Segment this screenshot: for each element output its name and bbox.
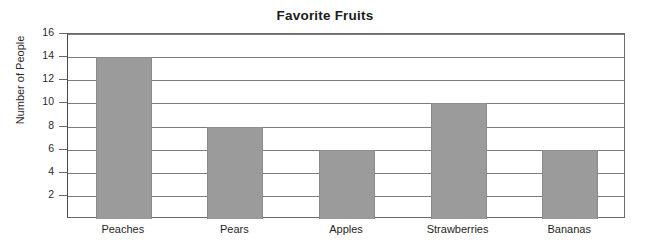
bar-chart: Favorite Fruits Number of People 2468101…: [0, 0, 650, 250]
y-tick-label: 8: [20, 119, 54, 131]
y-tick-label: 16: [20, 26, 54, 38]
y-tick-label: 2: [20, 188, 54, 200]
x-axis-label: Bananas: [509, 223, 629, 235]
y-tick-mark: [59, 172, 67, 173]
bar: [319, 150, 375, 219]
chart-title: Favorite Fruits: [0, 8, 650, 23]
bar: [96, 57, 152, 219]
y-tick-mark: [59, 33, 67, 34]
y-tick-mark: [59, 102, 67, 103]
y-tick-mark: [59, 126, 67, 127]
bar: [431, 103, 487, 219]
y-tick-label: 10: [20, 95, 54, 107]
x-axis-label: Peaches: [63, 223, 183, 235]
bar: [542, 150, 598, 219]
y-tick-label: 14: [20, 49, 54, 61]
y-tick-mark: [59, 79, 67, 80]
gridline: [68, 34, 624, 35]
y-tick-mark: [59, 149, 67, 150]
y-tick-label: 6: [20, 142, 54, 154]
y-tick-label: 12: [20, 72, 54, 84]
y-tick-label: 4: [20, 165, 54, 177]
y-tick-mark: [59, 56, 67, 57]
x-axis-label: Strawberries: [398, 223, 518, 235]
y-tick-mark: [59, 195, 67, 196]
x-axis-label: Pears: [174, 223, 294, 235]
plot-area: [67, 33, 625, 218]
x-axis-label: Apples: [286, 223, 406, 235]
bar: [207, 127, 263, 220]
